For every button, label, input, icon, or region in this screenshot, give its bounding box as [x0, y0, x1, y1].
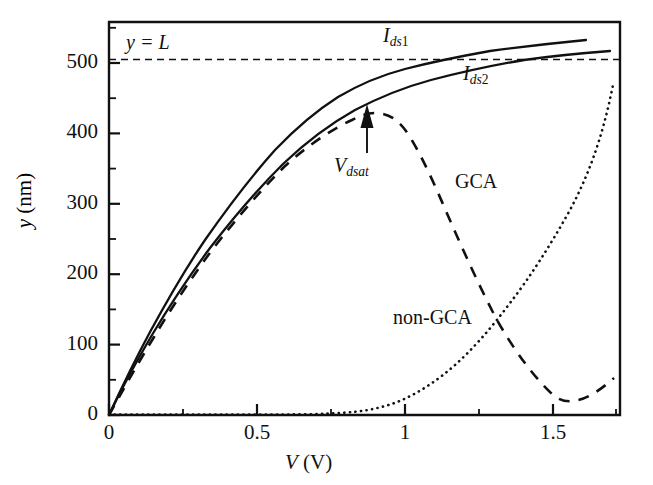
annotation-y-equals-L-rest: = L: [140, 31, 170, 53]
annotation-vdsat-sub: dsat: [346, 164, 369, 179]
y-tick-label-400: 400: [30, 121, 98, 142]
annotation-non-gca: non-GCA: [393, 307, 472, 327]
annotation-ids2-sub: ds: [470, 72, 482, 87]
y-axis-title-unit: (nm): [12, 173, 36, 214]
y-axis-title-symbol: y: [12, 219, 36, 228]
x-tick-label-1: 1: [375, 422, 435, 443]
plot-frame: [109, 22, 620, 415]
annotation-vdsat-base: V: [334, 154, 346, 176]
series-ids1: [109, 40, 586, 415]
x-axis-title: V (V): [285, 452, 332, 473]
vdsat-arrow: [361, 104, 374, 153]
x-axis-title-unit: (V): [303, 450, 332, 474]
x-tick-label-0: 0: [79, 422, 139, 443]
x-tick-label-1-5: 1.5: [523, 422, 583, 443]
annotation-ids1-num: 1: [402, 34, 409, 49]
y-axis-title: y (nm): [12, 141, 37, 261]
y-tick-label-0: 0: [30, 403, 98, 424]
series-non-gca: [109, 85, 613, 415]
figure-canvas: 500 400 300 200 100 0 0 0.5 1 1.5 V (V) …: [0, 0, 653, 485]
annotation-gca: GCA: [455, 171, 497, 191]
annotation-y-equals-L: y = L: [126, 32, 170, 52]
series-ids2: [109, 51, 610, 415]
y-tick-label-100: 100: [30, 333, 98, 354]
annotation-ids2: Ids2: [463, 63, 489, 86]
annotation-y-equals-L-symbol: y: [126, 31, 135, 53]
y-tick-label-300: 300: [30, 192, 98, 213]
annotation-ids1: Ids1: [383, 25, 409, 48]
x-axis-title-symbol: V: [285, 450, 298, 474]
y-tick-label-500: 500: [30, 51, 98, 72]
annotation-vdsat: Vdsat: [334, 155, 369, 178]
y-tick-label-200: 200: [30, 262, 98, 283]
annotation-ids1-sub: ds: [390, 34, 402, 49]
x-tick-label-0-5: 0.5: [227, 422, 287, 443]
annotation-ids2-num: 2: [482, 72, 489, 87]
annotation-ids1-base: I: [383, 24, 390, 46]
annotation-ids2-base: I: [463, 62, 470, 84]
